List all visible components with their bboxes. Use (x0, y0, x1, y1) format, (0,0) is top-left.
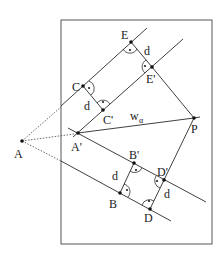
right-angle-dot-E-prime (144, 65, 146, 67)
right-angle-dot-C (88, 87, 90, 89)
label-C-prime: C' (103, 113, 113, 127)
label-D-prime: D' (157, 165, 168, 179)
label-A-prime: A' (71, 140, 82, 154)
right-angle-dot-D-prime (156, 180, 158, 182)
bisector-label: w (130, 109, 139, 123)
distance-label-E-E-prime: d (144, 44, 150, 58)
segment-P-D-prime (164, 118, 194, 180)
point-P (192, 116, 196, 120)
distance-label-C-C-prime: d (84, 99, 90, 113)
point-C-prime (101, 108, 105, 112)
point-A (20, 139, 24, 143)
dotted-ray-upper (22, 107, 61, 141)
point-E (129, 40, 133, 44)
label-C: C (72, 80, 80, 94)
upper-line (61, 28, 147, 106)
distance-label-B-B-prime: d (112, 169, 118, 183)
right-angle-dot-D (148, 200, 150, 202)
point-C (81, 84, 85, 88)
lower-parallel-line (68, 128, 206, 202)
label-D: D (144, 211, 153, 225)
distance-label-D-D-prime: d (164, 187, 170, 201)
segment-BB-prime (120, 163, 134, 193)
label-A: A (14, 147, 23, 161)
dotted-ray-middle (22, 134, 74, 141)
right-angle-dot-E (129, 49, 131, 51)
label-P: P (191, 122, 198, 136)
dotted-ray-lower (22, 141, 61, 161)
label-E: E (121, 28, 128, 42)
right-angle-dot-B-prime (135, 169, 137, 171)
label-E-prime: E' (146, 72, 156, 86)
segment-E-prime-P (152, 67, 194, 118)
right-angle-dot-C-prime (102, 101, 104, 103)
bisector-subscript: α (139, 116, 144, 125)
point-A-prime (76, 131, 80, 135)
point-E-prime (150, 65, 154, 69)
label-B: B (109, 197, 117, 211)
right-angle-dot-B (126, 189, 128, 191)
segment-DD-prime (150, 180, 164, 209)
point-B (118, 191, 122, 195)
label-B-prime: B' (129, 148, 139, 162)
geometry-diagram: A A' C C' E E' P B B' D D' d d d d w α (0, 0, 224, 255)
